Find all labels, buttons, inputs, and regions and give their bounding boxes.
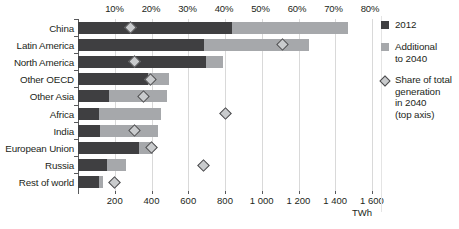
chart-row: Russia [78, 157, 372, 174]
legend-label: 2012 [395, 19, 416, 31]
chart-row: European Union [78, 139, 372, 156]
bar-segment-2012 [78, 108, 99, 120]
chart-row: Rest of world [78, 174, 372, 191]
bottom-axis-tick [78, 191, 79, 194]
bar-segment-2012 [78, 142, 139, 154]
bottom-axis-tick-label: 200 [107, 195, 123, 206]
top-axis-tick-label: 50% [251, 3, 270, 14]
legend-label: Additional to 2040 [395, 41, 437, 64]
share-marker-diamond [198, 159, 211, 172]
top-axis-tick-label: 60% [288, 3, 307, 14]
legend-swatch-additional-icon [381, 43, 389, 51]
category-label: Rest of world [19, 177, 74, 188]
bottom-axis-tick [299, 191, 300, 194]
bar-segment-2012 [78, 39, 204, 51]
stacked-bar-chart: 10%20%30%40%50%60%70%80% ChinaLatin Amer… [0, 0, 459, 229]
bottom-axis-tick-label: 1 200 [287, 195, 311, 206]
top-axis-tick-label: 20% [142, 3, 161, 14]
legend-item[interactable]: 2012 [381, 19, 416, 31]
y-axis-tick [74, 173, 78, 174]
chart-row: Other OECD [78, 71, 372, 88]
y-axis-tick [74, 105, 78, 106]
category-label: Africa [50, 108, 74, 119]
top-axis-tick-label: 30% [178, 3, 197, 14]
y-axis-tick [74, 70, 78, 71]
share-marker-diamond [219, 107, 232, 120]
y-axis-tick [74, 19, 78, 20]
top-axis-tick-label: 70% [324, 3, 343, 14]
bottom-twh-axis: 2004006008001 0001 2001 4001 600 [0, 191, 459, 213]
bottom-axis-tick [262, 191, 263, 194]
x-axis-unit-label: TWh [352, 207, 372, 218]
legend-item[interactable]: Share of total generation in 2040 (top a… [381, 74, 452, 120]
chart-row: Africa [78, 105, 372, 122]
bottom-axis-tick [152, 191, 153, 194]
top-axis-tick-label: 40% [215, 3, 234, 14]
chart-row: India [78, 122, 372, 139]
category-label: North America [14, 56, 74, 67]
y-axis-tick [74, 122, 78, 123]
bar-segment-2012 [78, 125, 100, 137]
bottom-axis-tick [225, 191, 226, 194]
category-label: Latin America [17, 39, 74, 50]
chart-row: North America [78, 53, 372, 70]
bottom-axis-tick [188, 191, 189, 194]
category-label: India [54, 125, 75, 136]
y-axis-tick [74, 53, 78, 54]
y-axis-tick [74, 156, 78, 157]
legend-item[interactable]: Additional to 2040 [381, 41, 437, 64]
plot-area: ChinaLatin AmericaNorth AmericaOther OEC… [78, 19, 372, 191]
bar-segment-additional-2040 [99, 176, 103, 188]
bar-segment-2012 [78, 22, 232, 34]
category-label: European Union [5, 142, 74, 153]
legend-label: Share of total generation in 2040 (top a… [395, 74, 452, 120]
y-axis-tick [74, 87, 78, 88]
bar-segment-additional-2040 [206, 56, 223, 68]
bottom-axis-tick-label: 600 [180, 195, 196, 206]
bar-segment-2012 [78, 90, 109, 102]
bar-segment-additional-2040 [204, 39, 309, 51]
bottom-axis-tick [335, 191, 336, 194]
y-axis-tick [74, 139, 78, 140]
category-label: Other OECD [20, 74, 74, 85]
bottom-axis-tick [115, 191, 116, 194]
y-axis-tick [74, 36, 78, 37]
top-axis-tick-label: 80% [361, 3, 380, 14]
legend-swatch-2012-icon [381, 21, 389, 29]
category-label: China [49, 22, 74, 33]
top-axis-tick-label: 10% [105, 3, 124, 14]
bar-segment-2012 [78, 73, 148, 85]
category-label: Other Asia [30, 91, 74, 102]
bar-segment-2012 [78, 176, 99, 188]
legend-diamond-icon [379, 75, 390, 86]
bar-segment-additional-2040 [107, 159, 126, 171]
chart-row: Latin America [78, 36, 372, 53]
chart-row: Other Asia [78, 88, 372, 105]
share-marker-diamond [108, 176, 121, 189]
bottom-axis-tick-label: 400 [144, 195, 160, 206]
category-label: Russia [45, 160, 74, 171]
gridline [372, 19, 373, 191]
bar-segment-2012 [78, 56, 206, 68]
bottom-axis-tick-label: 1 400 [323, 195, 347, 206]
chart-row: China [78, 19, 372, 36]
bottom-axis-tick-label: 800 [217, 195, 233, 206]
bar-segment-additional-2040 [99, 108, 161, 120]
bottom-axis-tick [372, 191, 373, 194]
top-percentage-axis: 10%20%30%40%50%60%70%80% [0, 3, 459, 17]
bar-segment-additional-2040 [232, 22, 348, 34]
bottom-axis-tick-label: 1 000 [250, 195, 274, 206]
bar-segment-2012 [78, 159, 107, 171]
